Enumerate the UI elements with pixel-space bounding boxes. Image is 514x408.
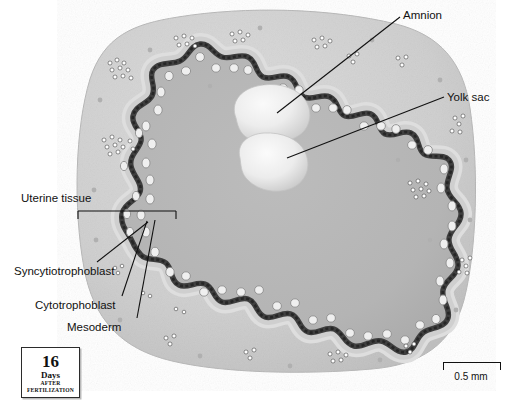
- stage-age-unit: Days: [41, 370, 60, 380]
- stage-age-number: 16: [42, 353, 59, 370]
- stage-age-line2: FERTILIZATION: [27, 387, 74, 394]
- figure-canvas: Amnion Yolk sac Uterine tissue Syncytiot…: [0, 0, 514, 408]
- scale-bar: [443, 362, 501, 370]
- label-mesoderm: Mesoderm: [67, 321, 121, 333]
- label-syncytiotrophoblast: Syncytiotrophoblast: [14, 265, 114, 277]
- stage-age-line1: AFTER: [41, 380, 61, 387]
- scale-bar-label: 0.5 mm: [443, 371, 499, 382]
- scale-bar-group: 0.5 mm: [443, 362, 505, 382]
- label-amnion: Amnion: [403, 9, 442, 21]
- label-cytotrophoblast: Cytotrophoblast: [35, 299, 116, 311]
- label-yolk-sac: Yolk sac: [447, 91, 489, 103]
- stage-age-box: 16 Days AFTER FERTILIZATION: [21, 347, 80, 398]
- label-uterine-tissue: Uterine tissue: [21, 192, 91, 204]
